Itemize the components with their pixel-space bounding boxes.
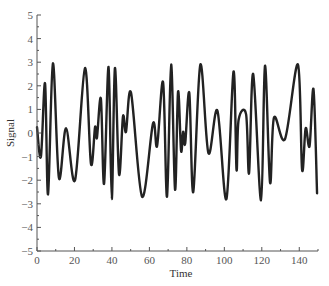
plot-area <box>37 63 317 200</box>
x-ticks: 020406080100120140 <box>34 247 318 266</box>
y-tick-label: −5 <box>21 245 33 257</box>
y-tick-label: 5 <box>28 9 34 21</box>
y-tick-label: 2 <box>28 80 34 92</box>
x-tick-label: 20 <box>69 254 81 266</box>
x-tick-label: 80 <box>181 254 193 266</box>
y-tick-label: 1 <box>28 103 34 115</box>
y-tick-label: −3 <box>21 198 33 210</box>
x-tick-label: 120 <box>254 254 271 266</box>
x-tick-label: 0 <box>34 254 40 266</box>
signal-chart: −5−4−3−2−1012345 020406080100120140 Time… <box>0 0 329 286</box>
x-axis: 020406080100120140 <box>34 247 318 266</box>
y-tick-label: −2 <box>21 174 33 186</box>
x-tick-label: 60 <box>144 254 156 266</box>
signal-line <box>37 63 317 200</box>
x-tick-label: 100 <box>216 254 233 266</box>
x-tick-label: 140 <box>291 254 308 266</box>
y-tick-label: −4 <box>21 221 33 233</box>
x-tick-label: 40 <box>106 254 118 266</box>
x-axis-label: Time <box>170 267 193 279</box>
y-axis-label: Signal <box>4 119 16 147</box>
y-axis: −5−4−3−2−1012345 <box>21 9 41 257</box>
y-tick-label: 0 <box>28 127 34 139</box>
y-tick-label: −1 <box>21 151 33 163</box>
y-tick-label: 4 <box>28 33 34 45</box>
y-tick-label: 3 <box>28 56 34 68</box>
y-ticks: −5−4−3−2−1012345 <box>21 9 41 257</box>
